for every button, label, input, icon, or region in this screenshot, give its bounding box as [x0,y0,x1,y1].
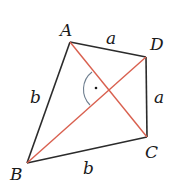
side-label-ad: a [106,28,116,48]
diagonal-bd [27,57,146,163]
side-label-cb: b [83,158,94,178]
kite-diagram: A D C B a a b b [0,0,178,192]
vertex-label-b: B [9,164,23,184]
vertex-label-c: C [145,142,158,162]
vertex-label-d: D [149,34,164,54]
right-angle-arc [83,72,92,105]
side-label-ba: b [30,87,41,107]
vertex-label-a: A [58,20,72,40]
right-angle-dot [95,87,98,90]
side-label-dc: a [154,87,164,107]
side-dc [146,57,147,137]
